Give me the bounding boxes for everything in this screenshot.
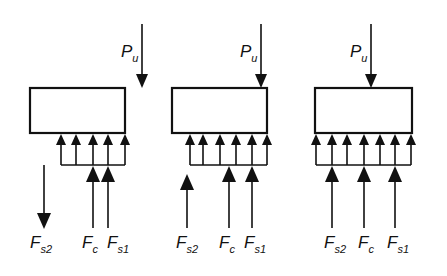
panel-1: Pu <box>30 24 148 255</box>
load-label-pu: Pu <box>240 42 257 64</box>
force-label-fs2: Fs2 <box>30 233 52 255</box>
panel-3: Pu <box>311 24 416 255</box>
force-label-fc: Fc <box>82 233 98 255</box>
section-box <box>172 88 267 133</box>
force-arrow-fc <box>357 166 371 228</box>
force-label-fs1: Fs1 <box>107 233 129 255</box>
force-diagram: Pu <box>0 0 447 276</box>
stress-block-arrows <box>311 134 416 165</box>
force-arrow-fs2 <box>325 166 339 228</box>
load-label-pu: Pu <box>121 42 138 64</box>
panel-2: Pu <box>172 24 272 255</box>
force-label-fc: Fc <box>358 233 374 255</box>
section-box <box>315 88 412 133</box>
force-label-fs2: Fs2 <box>176 233 198 255</box>
force-label-fs1: Fs1 <box>244 233 266 255</box>
stress-block-arrows <box>56 134 130 165</box>
force-arrow-fs2 <box>180 174 194 228</box>
force-arrow-fc <box>222 166 236 228</box>
force-arrow-fc <box>86 166 100 228</box>
force-arrow-fs2 <box>37 165 51 229</box>
load-label-pu: Pu <box>350 42 367 64</box>
force-label-fc: Fc <box>219 233 235 255</box>
force-arrow-fs1 <box>245 166 259 228</box>
force-label-fs1: Fs1 <box>387 233 409 255</box>
force-label-fs2: Fs2 <box>324 233 346 255</box>
stress-block-arrows <box>185 134 272 165</box>
section-box <box>30 88 125 133</box>
force-arrow-fs1 <box>388 166 402 228</box>
force-arrow-fs1 <box>101 166 115 228</box>
